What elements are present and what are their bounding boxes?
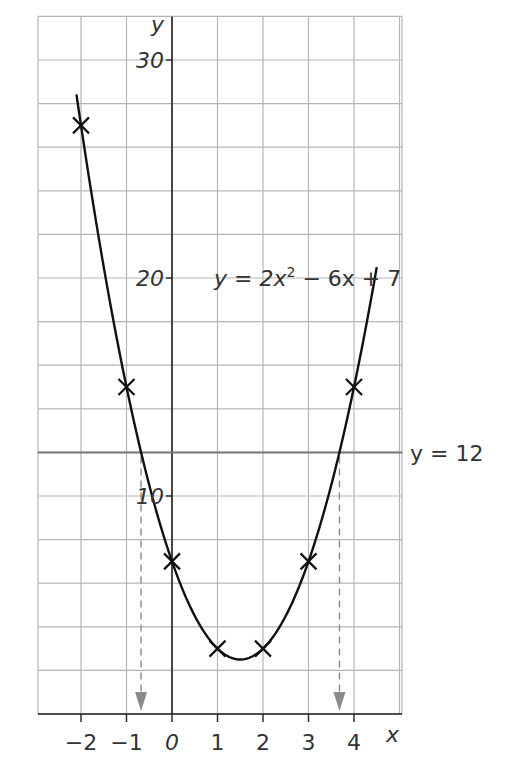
x-tick-label: 1: [211, 730, 225, 755]
curve-path: [76, 94, 376, 659]
x-tick-label: −2: [65, 730, 97, 755]
y-tick-label: 30: [136, 48, 164, 73]
arrow-head-icon: [333, 692, 345, 711]
x-axis-label: x: [385, 722, 400, 747]
x-tick-label: 3: [302, 730, 316, 755]
quadratic-graph: −2−101234102030xy y = 2x2 − 6x + 7 y = 1…: [0, 0, 515, 784]
y-axis-label: y: [150, 12, 165, 37]
y12-label: y = 12: [410, 441, 483, 466]
equation-label: y = 2x2 − 6x + 7: [213, 264, 401, 291]
parabola-curve: [76, 94, 376, 659]
x-tick-label: 0: [165, 730, 179, 755]
axes: [38, 16, 402, 722]
x-tick-label: 2: [256, 730, 270, 755]
grid-lines: [38, 16, 402, 714]
y-tick-label: 20: [136, 266, 164, 291]
arrow-head-icon: [135, 692, 147, 711]
x-tick-label: 4: [347, 730, 361, 755]
x-tick-label: −1: [110, 730, 142, 755]
y-tick-label: 10: [136, 484, 164, 509]
